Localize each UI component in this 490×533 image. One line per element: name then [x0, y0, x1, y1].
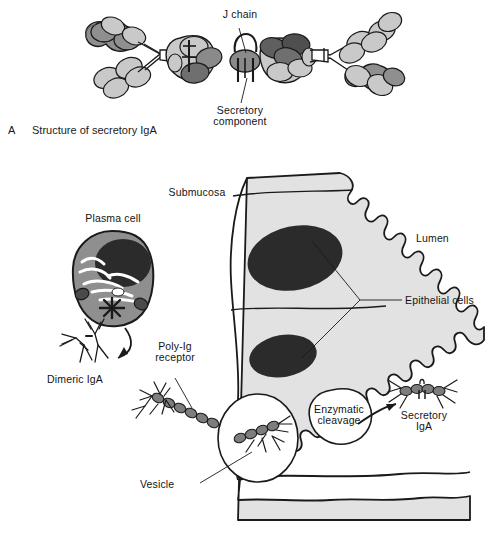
label-plasma-cell: Plasma cell	[85, 212, 140, 224]
label-submucosa: Submucosa	[169, 186, 226, 198]
vacuole	[112, 288, 124, 296]
secretory-iga-lumen	[388, 380, 457, 409]
iga-right-lower-arm	[342, 62, 407, 99]
poly-ig-receptor-basal	[132, 382, 220, 430]
label-dimeric-iga: Dimeric IgA	[47, 373, 103, 385]
label-epithelial-cells: Epithelial cells	[405, 294, 474, 306]
vesicle-circle	[218, 394, 298, 482]
iga-left-fc-core	[166, 36, 224, 85]
label-secretory-iga-line2: IgA	[416, 420, 432, 432]
plasma-cell	[73, 231, 153, 326]
secretory-component-leader-line	[241, 78, 247, 103]
iga-right-fc-core	[258, 32, 316, 83]
figure-svg	[0, 0, 490, 533]
label-poly-ig-receptor-line2: receptor	[155, 351, 195, 363]
panel-a-letter: A	[8, 124, 15, 136]
label-j-chain: J chain	[223, 8, 257, 20]
secretory-iga-figure: J chain Secretory component A Structure …	[0, 0, 490, 533]
iga-left-upper-arm	[86, 14, 148, 51]
golgi-apparatus	[100, 298, 124, 318]
iga-left-lower-arm	[91, 54, 154, 102]
panel-b-mucosal-transport	[60, 173, 484, 520]
label-enzymatic-cleavage-line2: cleavage	[317, 414, 360, 426]
dimeric-iga-molecule	[60, 319, 108, 362]
iga-right-upper-arm	[336, 9, 404, 67]
arrow-plasma-to-iga	[118, 328, 131, 358]
label-vesicle: Vesicle	[140, 478, 174, 490]
panel-a-iga-molecule	[86, 9, 408, 103]
label-secretory-component-line2: component	[213, 115, 266, 127]
panel-a-caption: Structure of secretory IgA	[32, 124, 157, 136]
j-chain-leader-line	[239, 28, 246, 53]
iga-j-chain-and-secretory-component	[230, 34, 260, 82]
label-lumen: Lumen	[416, 232, 449, 244]
